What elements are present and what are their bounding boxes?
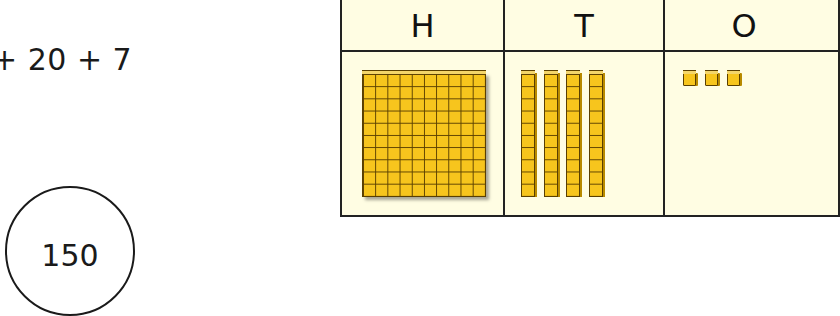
ten-rod-block bbox=[589, 73, 603, 197]
header-ones: O bbox=[665, 6, 823, 46]
header-divider bbox=[342, 50, 838, 52]
ten-rod-block bbox=[521, 73, 535, 197]
unit-cube-block bbox=[683, 73, 696, 86]
ten-rod-block bbox=[544, 73, 558, 197]
header-hundreds: H bbox=[342, 6, 503, 46]
header-tens: T bbox=[505, 6, 663, 46]
hundred-flat-block bbox=[362, 73, 486, 197]
ten-rod-block bbox=[566, 73, 580, 197]
unit-cube-block bbox=[727, 73, 740, 86]
unit-cube-block bbox=[705, 73, 718, 86]
place-value-table: H T O bbox=[340, 0, 840, 217]
circled-number-value: 150 bbox=[7, 238, 133, 273]
circled-number: 150 bbox=[5, 186, 135, 316]
addition-expression: + 20 + 7 bbox=[0, 42, 132, 77]
